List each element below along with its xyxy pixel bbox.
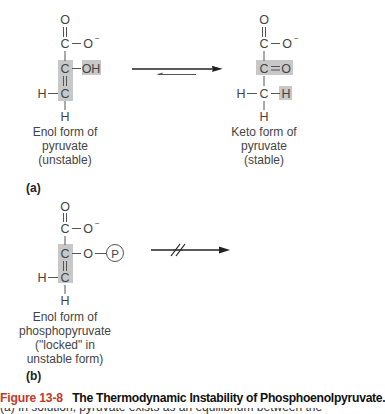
atom-h-left: H — [37, 271, 46, 285]
label-line: unstable form) — [10, 352, 120, 366]
atom-top-o: O — [259, 13, 269, 27]
blocked-arrow-icon — [151, 244, 230, 256]
label-line: pyruvate — [15, 139, 115, 153]
atom-carbonyl-o: O — [281, 62, 291, 76]
panel-a-letter: (a) — [26, 181, 41, 195]
label-line: Enol form of — [10, 310, 120, 324]
atom-h-left: H — [37, 87, 46, 101]
caption-partial-text: (a) In solution, pyruvate exists as an e… — [0, 408, 323, 414]
label-line: (unstable) — [15, 153, 115, 167]
label-line: phosphopyruvate — [10, 324, 120, 338]
pep-label: Enol form of phosphopyruvate ("locked" i… — [10, 310, 120, 366]
atom-top-o: O — [60, 13, 70, 27]
caption-cutoff-line: (a) In solution, pyruvate exists as an e… — [0, 408, 323, 414]
label-line: pyruvate — [214, 139, 314, 153]
label-line: ("locked" in — [10, 338, 120, 352]
keto-pyruvate-label: Keto form of pyruvate (stable) — [214, 125, 314, 167]
atom-oh: OH — [82, 62, 101, 76]
label-line: Enol form of — [15, 125, 115, 139]
atom-ester-o: O — [83, 247, 93, 261]
atom-beta-c: C — [60, 87, 69, 101]
atom-phosphate: P — [111, 248, 119, 260]
atom-alpha-c: C — [60, 247, 69, 261]
atom-h-bottom: H — [60, 110, 69, 124]
atom-h-bottom: H — [259, 110, 268, 124]
enol-pyruvate-structure: O C O − C OH C H H — [37, 13, 101, 124]
equilibrium-arrows — [132, 66, 223, 75]
label-line: (stable) — [214, 153, 314, 167]
panel-b-letter: (b) — [26, 369, 41, 383]
atom-h-right: H — [281, 87, 290, 101]
atom-carbonyl-c: C — [259, 62, 268, 76]
enol-pyruvate-label: Enol form of pyruvate (unstable) — [15, 125, 115, 167]
atom-carboxylate-o: O — [83, 37, 93, 51]
atom-carboxylate-o: O — [282, 37, 292, 51]
atom-h-left: H — [236, 87, 245, 101]
atom-beta-c: C — [60, 271, 69, 285]
figure-number: Figure 13-8 — [0, 391, 63, 405]
charge-minus: − — [294, 34, 299, 43]
atom-h-bottom: H — [60, 294, 69, 308]
label-line: Keto form of — [214, 125, 314, 139]
keto-pyruvate-structure: O C O − C O H C H H — [236, 13, 299, 124]
atom-carboxyl-c: C — [60, 222, 69, 236]
charge-minus: − — [95, 34, 100, 43]
figure-title: The Thermodynamic Instability of Phospho… — [72, 391, 385, 405]
atom-carboxylate-o: O — [83, 222, 93, 236]
atom-alpha-c: C — [60, 62, 69, 76]
pep-structure: O C O − C O P C H H — [37, 200, 123, 308]
figure-caption: Figure 13-8 The Thermodynamic Instabilit… — [0, 391, 323, 405]
atom-methyl-c: C — [259, 87, 268, 101]
atom-carboxyl-c: C — [259, 37, 268, 51]
atom-top-o: O — [60, 200, 70, 214]
atom-carboxyl-c: C — [60, 37, 69, 51]
charge-minus: − — [95, 219, 100, 228]
